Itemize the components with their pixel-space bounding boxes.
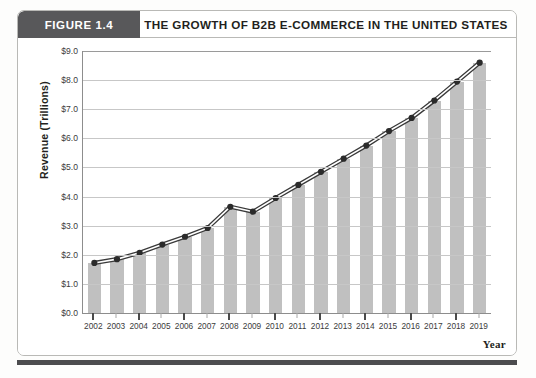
data-point-marker xyxy=(386,128,392,134)
x-axis-tick xyxy=(183,313,185,320)
x-axis-title: Year xyxy=(483,338,506,350)
data-point-marker xyxy=(477,60,483,66)
plot-area xyxy=(82,51,491,314)
data-point-marker xyxy=(159,241,165,247)
x-axis-ticks xyxy=(82,313,490,320)
y-axis-tick-labels: $0.0$1.0$2.0$3.0$4.0$5.0$6.0$7.0$8.0$9.0 xyxy=(40,51,78,313)
y-axis-tick-label: $1.0 xyxy=(61,279,78,289)
figure-card: FIGURE 1.4 THE GROWTH OF B2B E-COMMERCE … xyxy=(17,10,517,356)
x-axis-tick xyxy=(319,313,321,320)
x-axis-tick-label: 2010 xyxy=(265,321,283,331)
x-axis-tick xyxy=(297,313,298,318)
x-axis-tick-label: 2004 xyxy=(129,321,147,331)
figure-body: Revenue (Trillions) $0.0$1.0$2.0$3.0$4.0… xyxy=(18,38,516,356)
x-axis-tick xyxy=(161,313,162,318)
figure-number-tag: FIGURE 1.4 xyxy=(18,11,140,38)
x-axis-tick xyxy=(433,313,434,318)
gridline xyxy=(83,284,491,285)
gridline xyxy=(83,51,491,52)
gridline xyxy=(83,109,491,110)
gridline xyxy=(83,197,491,198)
gridline xyxy=(83,255,491,256)
x-axis-tick-label: 2019 xyxy=(469,321,487,331)
x-axis-tick-labels: 2002200320042005200620072008200920102011… xyxy=(82,321,490,335)
x-axis-tick xyxy=(478,313,479,318)
x-axis-tick-label: 2013 xyxy=(333,321,351,331)
figure-title: THE GROWTH OF B2B E-COMMERCE IN THE UNIT… xyxy=(140,11,516,38)
x-axis-tick-label: 2007 xyxy=(197,321,215,331)
y-axis-tick-label: $5.0 xyxy=(61,162,78,172)
x-axis-tick xyxy=(116,313,117,318)
x-axis-tick-label: 2018 xyxy=(447,321,465,331)
data-point-marker xyxy=(431,97,437,103)
x-axis-tick-label: 2015 xyxy=(379,321,397,331)
x-axis-tick xyxy=(388,313,389,318)
data-point-marker xyxy=(318,169,324,175)
gridline xyxy=(83,226,491,227)
x-axis-tick-label: 2009 xyxy=(243,321,261,331)
x-axis-tick xyxy=(228,313,230,320)
x-axis-tick-label: 2011 xyxy=(288,321,306,331)
data-point-marker xyxy=(250,209,256,215)
figure-bottom-rule xyxy=(17,360,517,365)
revenue-line-series xyxy=(83,51,491,313)
x-axis-tick xyxy=(342,313,343,318)
x-axis-tick-label: 2006 xyxy=(175,321,193,331)
y-axis-tick-label: $8.0 xyxy=(61,75,78,85)
x-axis-tick-label: 2016 xyxy=(401,321,419,331)
data-point-marker xyxy=(182,234,188,240)
y-axis-tick-label: $4.0 xyxy=(61,192,78,202)
x-axis-tick-label: 2014 xyxy=(356,321,374,331)
data-point-marker xyxy=(227,204,233,210)
y-axis-tick-label: $0.0 xyxy=(61,308,78,318)
x-axis-tick xyxy=(455,313,457,320)
x-axis-tick-label: 2002 xyxy=(84,321,102,331)
data-point-marker xyxy=(363,143,369,149)
gridline xyxy=(83,138,491,139)
y-axis-tick-label: $6.0 xyxy=(61,133,78,143)
x-axis-tick xyxy=(364,313,366,320)
x-axis-tick-label: 2008 xyxy=(220,321,238,331)
x-axis-tick xyxy=(410,313,412,320)
x-axis-tick xyxy=(274,313,276,320)
x-axis-tick xyxy=(138,313,140,320)
y-axis-tick-label: $2.0 xyxy=(61,250,78,260)
data-point-marker xyxy=(114,256,120,262)
y-axis-tick-label: $9.0 xyxy=(61,46,78,56)
x-axis-tick xyxy=(252,313,253,318)
x-axis-tick-label: 2017 xyxy=(424,321,442,331)
gridline xyxy=(83,80,491,81)
x-axis-tick-label: 2005 xyxy=(152,321,170,331)
gridline xyxy=(83,167,491,168)
data-point-marker xyxy=(295,182,301,188)
x-axis-tick-label: 2003 xyxy=(107,321,125,331)
figure-header: FIGURE 1.4 THE GROWTH OF B2B E-COMMERCE … xyxy=(18,11,516,38)
data-point-marker xyxy=(409,115,415,121)
x-axis-tick xyxy=(206,313,207,318)
data-point-marker xyxy=(91,260,97,266)
data-point-marker xyxy=(341,156,347,162)
x-axis-tick xyxy=(92,313,94,320)
y-axis-tick-label: $7.0 xyxy=(61,104,78,114)
y-axis-tick-label: $3.0 xyxy=(61,221,78,231)
x-axis-tick-label: 2012 xyxy=(311,321,329,331)
